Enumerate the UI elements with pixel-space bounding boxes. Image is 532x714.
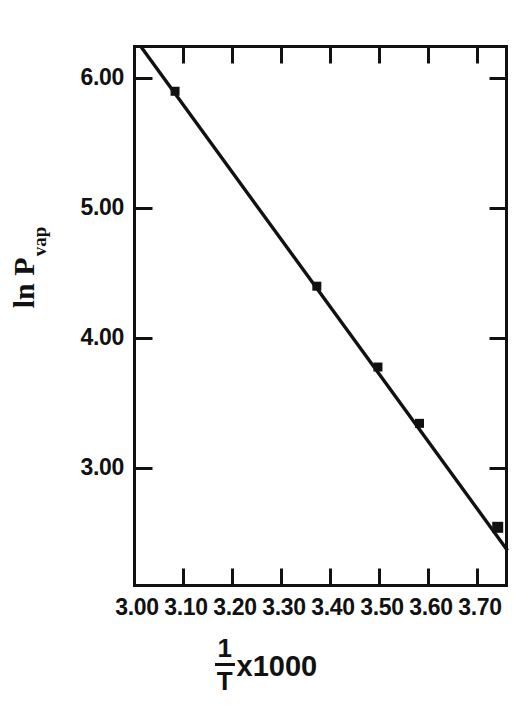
y-tick-label-3: 3.00	[80, 456, 124, 479]
fraction-numerator: 1	[215, 635, 235, 663]
y-axis-title-subscript: vap	[29, 227, 50, 257]
x-tick-label-330: 3.30	[262, 596, 306, 619]
data-point	[171, 87, 180, 96]
one-over-t-fraction: 1T	[215, 635, 235, 694]
x-tick-label-370: 3.70	[458, 596, 502, 619]
chart-figure: 6.00 5.00 4.00 3.00 3.00 3.10 3.20 3.30 …	[0, 0, 532, 714]
y-axis-title-main: ln P	[7, 257, 40, 308]
y-axis-ticks-right	[490, 79, 507, 469]
x-axis-title: 1Tx1000	[0, 636, 532, 695]
y-axis-ticks-left	[135, 79, 153, 469]
x-tick-label-340: 3.40	[311, 596, 355, 619]
x-tick-label-350: 3.50	[360, 596, 404, 619]
x-tick-label-300: 3.00	[115, 596, 159, 619]
x-tick-label-360: 3.60	[409, 596, 453, 619]
x-tick-label-310: 3.10	[164, 596, 208, 619]
y-tick-label-6: 6.00	[80, 66, 124, 89]
fraction-denominator: T	[215, 667, 235, 695]
y-tick-label-4: 4.00	[80, 326, 124, 349]
fit-line	[141, 47, 508, 551]
data-point	[312, 282, 321, 291]
x-axis-ticks-bottom	[135, 569, 478, 586]
x-axis-title-multiplier: x1000	[235, 652, 318, 681]
x-axis-tick-labels: 3.00 3.10 3.20 3.30 3.40 3.50 3.60 3.70	[0, 596, 532, 630]
data-point	[492, 522, 503, 533]
y-tick-label-5: 5.00	[80, 196, 124, 219]
x-tick-label-320: 3.20	[213, 596, 257, 619]
x-axis-ticks-top	[184, 47, 478, 64]
y-axis-title: ln Pvap	[4, 188, 44, 348]
data-point	[373, 363, 382, 372]
data-point	[415, 419, 424, 428]
